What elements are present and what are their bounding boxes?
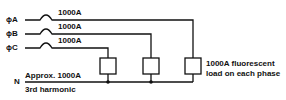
load-box-phase-a: [185, 58, 201, 74]
load-box-phase-b: [143, 58, 159, 74]
phase-c-conductor: [25, 43, 108, 58]
load-description-line2: load on each phase: [206, 70, 280, 78]
phase-c-label: ϕC: [6, 44, 18, 52]
phase-b-label: ϕB: [6, 30, 18, 38]
neutral-current: Approx. 1000A: [25, 72, 81, 80]
junction-dot: [106, 80, 110, 84]
load-box-phase-c: [100, 58, 116, 74]
junction-dot: [149, 80, 153, 84]
three-phase-neutral-diagram: ϕA ϕB ϕC N 1000A 1000A 1000A Approx. 100…: [0, 0, 286, 100]
phase-a-conductor: [25, 15, 193, 58]
phase-a-current: 1000A: [58, 9, 82, 17]
phase-b-current: 1000A: [58, 23, 82, 31]
neutral-harmonic-note: 3rd harmonic: [25, 86, 76, 94]
phase-c-current: 1000A: [58, 37, 82, 45]
load-description-line1: 1000A fluorescent: [206, 60, 275, 68]
phase-a-label: ϕA: [6, 16, 18, 24]
neutral-label: N: [14, 78, 20, 86]
